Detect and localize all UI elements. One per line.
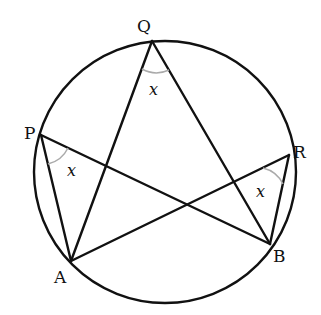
segment-PB	[41, 135, 270, 244]
segment-PA	[41, 135, 71, 261]
point-label-B: B	[273, 246, 286, 266]
angle-label-P: x	[67, 161, 76, 180]
angle-arc-Q	[142, 69, 169, 73]
angle-label-R: x	[256, 182, 265, 201]
segment-RB	[270, 155, 289, 244]
point-label-P: P	[24, 123, 35, 143]
angle-arc-P	[48, 148, 68, 164]
angle-arc-R	[263, 168, 283, 184]
point-label-A: A	[53, 267, 67, 287]
angle-arcs	[48, 69, 283, 184]
circle-theorem-diagram: Q P R B A x x x	[0, 0, 321, 315]
point-label-Q: Q	[137, 16, 151, 36]
angle-label-Q: x	[149, 80, 158, 99]
point-label-R: R	[293, 142, 307, 162]
